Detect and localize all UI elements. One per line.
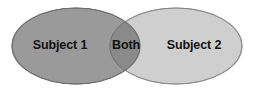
venn-diagram: Subject 1 Both Subject 2 (0, 0, 256, 92)
set-left-label: Subject 1 (16, 39, 104, 52)
set-right-label: Subject 2 (150, 39, 238, 52)
set-intersection-label: Both (105, 39, 147, 52)
